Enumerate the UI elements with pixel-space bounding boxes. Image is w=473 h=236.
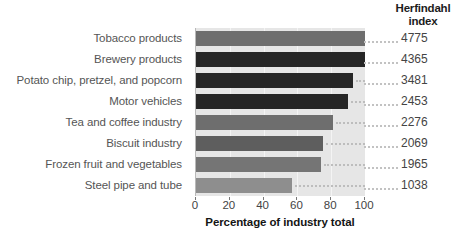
category-label: Tea and coffee industry <box>0 112 188 133</box>
plot-area <box>195 28 365 196</box>
index-value: 1965 <box>401 154 473 175</box>
value-leader-dots <box>364 167 398 169</box>
index-value: 4775 <box>401 28 473 49</box>
leader-dots <box>295 185 365 187</box>
index-value: 2276 <box>401 112 473 133</box>
category-label: Tobacco products <box>0 28 188 49</box>
value-leader-dots <box>364 41 398 43</box>
bar-row <box>196 175 365 196</box>
index-value: 2069 <box>401 133 473 154</box>
bar <box>196 94 348 109</box>
axis-tick-label: 100 <box>349 199 379 211</box>
x-axis: 020406080100 <box>195 197 365 213</box>
value-leader-dots <box>364 104 398 106</box>
bar <box>196 31 365 46</box>
bar <box>196 157 321 172</box>
category-label: Motor vehicles <box>0 91 188 112</box>
bar-row <box>196 154 365 175</box>
leader-dots <box>351 101 365 103</box>
bar-chart: Tobacco productsBrewery productsPotato c… <box>0 28 473 200</box>
value-leader-dots <box>364 62 398 64</box>
category-label: Biscuit industry <box>0 133 188 154</box>
index-value: 1038 <box>401 175 473 196</box>
bar <box>196 73 353 88</box>
bar <box>196 178 292 193</box>
bar <box>196 115 333 130</box>
index-value: 4365 <box>401 49 473 70</box>
axis-tick-label: 60 <box>281 199 311 211</box>
axis-tick-label: 0 <box>180 199 210 211</box>
bar <box>196 52 365 67</box>
axis-tick-label: 20 <box>214 199 244 211</box>
bar-row <box>196 91 365 112</box>
category-label: Frozen fruit and vegetables <box>0 154 188 175</box>
category-label: Brewery products <box>0 49 188 70</box>
leader-dots <box>336 122 365 124</box>
axis-tick-label: 40 <box>248 199 278 211</box>
category-axis-labels: Tobacco productsBrewery productsPotato c… <box>0 28 188 196</box>
bar-row <box>196 28 365 49</box>
index-value: 2453 <box>401 91 473 112</box>
category-label: Steel pipe and tube <box>0 175 188 196</box>
header-line-1: Herfindahl <box>373 2 473 15</box>
category-label: Potato chip, pretzel, and popcorn <box>0 70 188 91</box>
value-leader-dots <box>364 125 398 127</box>
index-values-column: 47754365348124532276206919651038 <box>401 28 473 196</box>
index-value: 3481 <box>401 70 473 91</box>
value-leader-dots <box>364 146 398 148</box>
x-axis-title: Percentage of industry total <box>195 216 365 228</box>
bar-row <box>196 49 365 70</box>
bar <box>196 136 323 151</box>
leader-dots <box>356 80 365 82</box>
bar-row <box>196 112 365 133</box>
leader-dots <box>326 143 365 145</box>
axis-tick-label: 80 <box>315 199 345 211</box>
header-line-2: index <box>373 15 473 28</box>
leader-dots <box>324 164 365 166</box>
value-leader-dots <box>364 188 398 190</box>
herfindahl-index-header: Herfindahl index <box>373 2 473 28</box>
value-leader-dots <box>364 83 398 85</box>
bar-row <box>196 70 365 91</box>
bar-row <box>196 133 365 154</box>
